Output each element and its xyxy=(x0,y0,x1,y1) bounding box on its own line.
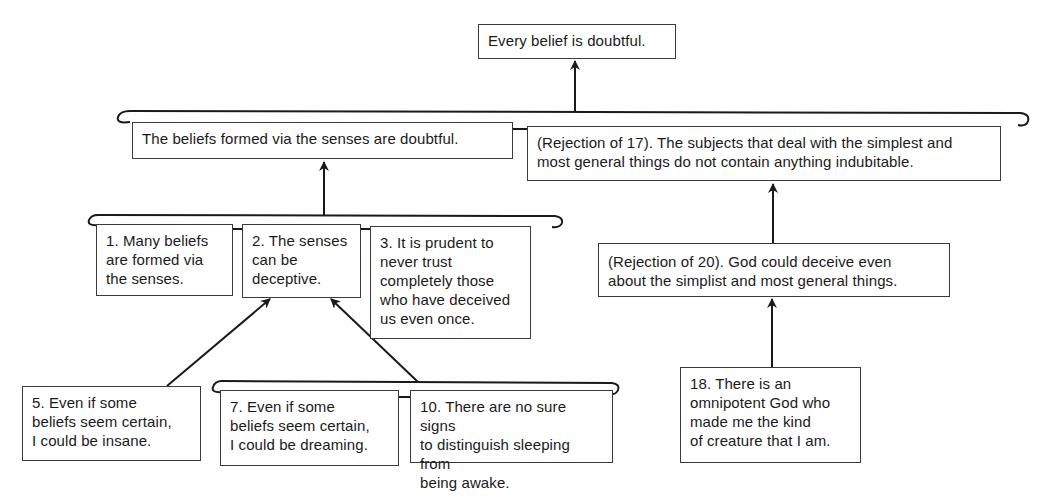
node-premise-10: 10. There are no sure signs to distingui… xyxy=(410,390,613,463)
node-rejection-17: (Rejection of 17). The subjects that dea… xyxy=(527,126,1001,181)
node-rejection-20: (Rejection of 20). God could deceive eve… xyxy=(598,243,950,297)
node-premise-7: 7. Even if some beliefs seem certain, I … xyxy=(220,390,399,466)
argument-map-canvas: Every belief is doubtful. The beliefs fo… xyxy=(0,0,1062,500)
node-premise-2: 2. The senses can be deceptive. xyxy=(242,224,361,298)
node-premise-5: 5. Even if some beliefs seem certain, I … xyxy=(22,386,201,461)
node-senses-doubtful: The beliefs formed via the senses are do… xyxy=(132,122,513,159)
arrow-premise-5-to-2 xyxy=(167,299,270,386)
node-premise-3: 3. It is prudent to never trust complete… xyxy=(370,226,531,339)
node-every-belief-doubtful: Every belief is doubtful. xyxy=(478,24,676,59)
node-premise-18: 18. There is an omnipotent God who made … xyxy=(680,367,861,463)
node-premise-1: 1. Many beliefs are formed via the sense… xyxy=(96,224,233,296)
